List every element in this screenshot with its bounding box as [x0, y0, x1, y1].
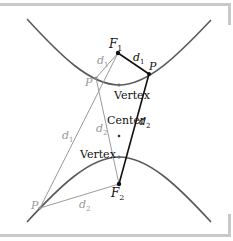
vertex-lower-dot: [117, 155, 120, 158]
point-p-left-upper-dot: [94, 76, 97, 79]
frame-bottom-right-tick: [228, 214, 231, 237]
label-vertex-upper: Vertex: [113, 89, 151, 102]
point-p-left-lower-dot: [38, 206, 41, 209]
label-p-left-upper: P: [84, 76, 93, 89]
label-p-left-lower: P: [30, 199, 39, 212]
label-vertex-lower: Vertex: [79, 148, 117, 161]
label-d1-light-lower: d1: [62, 129, 74, 144]
label-f1: F1: [108, 37, 122, 53]
frame-top-bar: [0, 3, 231, 6]
label-center: Center: [107, 114, 146, 127]
vertex-upper-dot: [117, 83, 120, 86]
frame-top-right-tick: [228, 3, 231, 25]
label-f2: F2: [110, 186, 124, 202]
label-d1-light-upper: d1: [97, 54, 109, 69]
label-d1-dark: d1: [133, 51, 145, 66]
label-d2-light-bottom: d2: [79, 198, 91, 213]
hyperbola-diagram: F1 F2 P P P d1 d2 d1 d2 d1 d2 Vertex Cen…: [0, 0, 233, 241]
frame-bottom-bar: [0, 234, 231, 237]
label-p-right: P: [148, 60, 157, 73]
center-dot: [118, 135, 121, 138]
